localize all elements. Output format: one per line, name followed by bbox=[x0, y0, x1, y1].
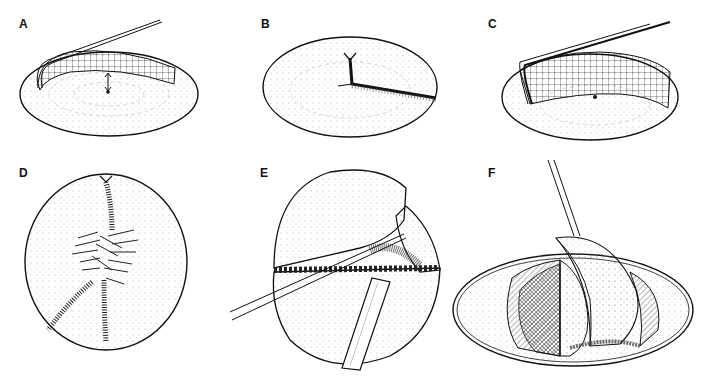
panel-c-illustration bbox=[470, 0, 706, 150]
panel-e: E bbox=[220, 160, 450, 384]
panel-d: D bbox=[0, 160, 220, 384]
panel-b-illustration bbox=[240, 0, 475, 150]
panel-f-illustration bbox=[440, 160, 706, 384]
panel-c: C bbox=[470, 0, 706, 150]
panel-f: F bbox=[440, 160, 706, 384]
panel-b: B bbox=[240, 0, 475, 150]
panel-d-illustration bbox=[0, 160, 220, 384]
panel-e-illustration bbox=[220, 160, 450, 384]
panel-a: A bbox=[0, 0, 235, 150]
panel-a-illustration bbox=[0, 0, 235, 150]
